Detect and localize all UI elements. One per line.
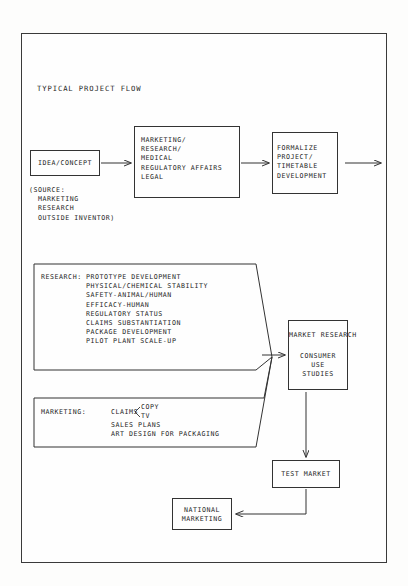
marketing-claims-tv: TV <box>141 412 150 421</box>
node-formalize-project-label: FORMALIZE PROJECT/ TIMETABLE DEVELOPMENT <box>277 144 327 181</box>
marketing-panel-heading: MARKETING: <box>41 408 86 417</box>
node-idea-concept-label: IDEA/CONCEPT <box>34 159 96 168</box>
page-title: TYPICAL PROJECT FLOW <box>37 84 142 93</box>
node-market-research-body: CONSUMER USE STUDIES <box>289 352 347 380</box>
idea-source-note: (SOURCE: MARKETING RESEARCH OUTSIDE INVE… <box>29 186 115 223</box>
marketing-claims-label: CLAIMS <box>111 408 138 417</box>
research-panel-items: PROTOTYPE DEVELOPMENT PHYSICAL/CHEMICAL … <box>86 273 208 347</box>
node-national-marketing-label: NATIONAL MARKETING <box>174 506 230 524</box>
node-review-group-label: MARKETING/ RESEARCH/ MEDICAL REGULATORY … <box>141 136 222 182</box>
flowchart-page: TYPICAL PROJECT FLOW IDEA/CONCEPT (SOURC… <box>0 0 408 586</box>
marketing-panel-items: SALES PLANS ART DESIGN FOR PACKAGING <box>111 421 219 439</box>
node-test-market-label: TEST MARKET <box>274 470 338 479</box>
research-panel-heading: RESEARCH: <box>41 273 82 282</box>
marketing-claims-copy: COPY <box>141 403 159 412</box>
node-market-research-title: MARKET RESEARCH <box>289 331 347 340</box>
